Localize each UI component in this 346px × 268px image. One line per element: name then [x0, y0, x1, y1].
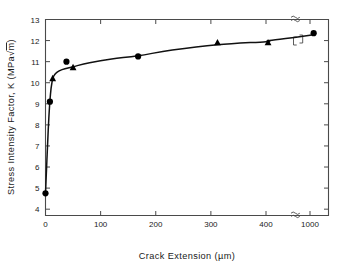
data-point-triangle	[214, 39, 221, 45]
x-axis-break-bottom	[291, 212, 300, 218]
y-tick-label: 6	[35, 163, 40, 172]
data-point-circle	[311, 30, 317, 36]
data-point-circle	[63, 59, 69, 65]
x-axis-break-top	[291, 16, 300, 22]
x-axis-title: Crack Extension (µm)	[139, 251, 236, 261]
axis-break-marks	[291, 16, 303, 218]
y-tick-label: 13	[31, 16, 40, 25]
axis-box	[46, 20, 329, 216]
y-axis-title: Stress Intensity Factor, K (MPa√m)	[6, 39, 16, 195]
y-axis: 45678910111213	[31, 16, 329, 215]
y-tick-label: 9	[35, 100, 40, 109]
x-tick-label: 300	[204, 220, 218, 229]
data-point-circle	[42, 190, 48, 196]
x-tick-label: 200	[149, 220, 163, 229]
x-tick-label: 100	[94, 220, 108, 229]
data-curve	[46, 33, 315, 193]
y-tick-label: 11	[31, 58, 40, 67]
y-tick-label: 4	[35, 205, 40, 214]
y-tick-label: 5	[35, 184, 40, 193]
x-tick-label: 1000	[301, 220, 319, 229]
y-tick-label: 7	[35, 142, 40, 151]
data-markers	[42, 30, 316, 196]
y-tick-label: 12	[31, 37, 40, 46]
x-axis: 01002003004001000	[43, 20, 319, 230]
y-tick-label: 10	[31, 79, 40, 88]
data-point-circle	[47, 99, 53, 105]
x-tick-label: 0	[43, 220, 48, 229]
data-point-triangle	[49, 75, 56, 81]
data-point-circle	[135, 53, 141, 59]
y-tick-label: 8	[35, 121, 40, 130]
plot-frame	[46, 20, 329, 216]
x-tick-label: 400	[259, 220, 273, 229]
chart-figure: 45678910111213 01002003004001000 Crack E…	[0, 0, 346, 268]
